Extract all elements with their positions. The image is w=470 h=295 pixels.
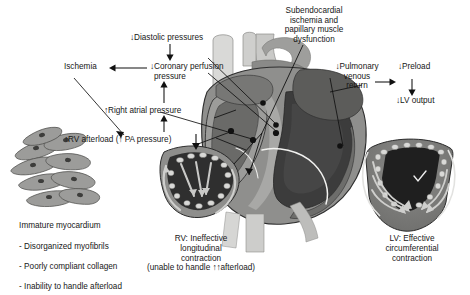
caption-rv: RV: Ineffective longitudinal contraction… <box>136 234 266 273</box>
caption-rv-line4: (unable to handle ↑↑afterload) <box>147 263 255 272</box>
label-preload: ↓Preload <box>398 62 430 72</box>
caption-lv: LV: Effective circumferential contractio… <box>362 234 462 263</box>
immature-myocardium-title: Immature myocardium <box>19 221 100 230</box>
label-right-atrial-pressure: ↑Right atrial pressure <box>104 106 181 116</box>
myocardium-bullet-0: - Disorganized myofibrils <box>19 242 109 251</box>
lv-cross-section-graphic <box>363 139 455 231</box>
label-pulmonary-venous-return: ↓Pulmonaryvenousreturn <box>334 62 380 91</box>
label-ischemia: Ischemia <box>64 62 97 72</box>
label-diastolic-pressures: ↓Diastolic pressures <box>130 33 203 43</box>
label-lv-output: ↓LV output <box>396 96 434 106</box>
label-rv-afterload: ↑RV afterload (↑ PA pressure) <box>64 135 171 145</box>
myocardium-bullet-1: - Poorly compliant collagen <box>19 262 117 271</box>
label-subendocardial-ischemia: Subendocardialischemia andpapillary musc… <box>272 6 356 44</box>
label-coronary-perfusion-pressure: ↓Coronary perfusionpressure <box>150 62 224 81</box>
immature-myocardium-text-block: Immature myocardium - Disorganized myofi… <box>10 211 122 295</box>
myocardium-bullet-2: - Inability to handle afterload <box>19 282 122 291</box>
